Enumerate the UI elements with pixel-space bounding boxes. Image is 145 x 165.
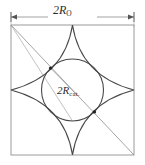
geometry-figure: 2RO 2Rcat. — [0, 0, 145, 165]
diagonal-guide-line — [11, 25, 73, 121]
intersection-dot-lower-right — [93, 110, 96, 113]
intersection-dot-upper-left — [49, 66, 52, 69]
outer-dimension-line — [11, 12, 134, 22]
figure-canvas — [0, 0, 145, 165]
outer-radius-label: 2RO — [53, 4, 72, 16]
dimension-arrow-right-icon — [128, 15, 134, 20]
inner-radius-label: 2Rcat. — [57, 85, 80, 96]
dimension-arrow-left-icon — [11, 15, 17, 20]
outer-label-subscript: O — [66, 9, 72, 18]
inner-label-subscript: cat. — [69, 90, 79, 97]
